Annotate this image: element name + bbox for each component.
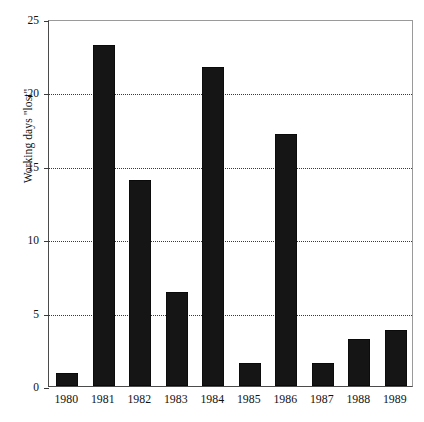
- bar: [202, 67, 224, 386]
- bar: [385, 330, 407, 386]
- y-axis-tick-label: 20: [0, 87, 39, 99]
- y-axis-tick-mark: [44, 241, 49, 242]
- y-axis-tick-label: 5: [0, 308, 39, 320]
- x-axis-tick-label: 1987: [304, 392, 341, 407]
- y-axis-title: Working days "lost": [22, 36, 34, 236]
- bar: [129, 180, 151, 386]
- x-axis-tick-label: 1981: [85, 392, 122, 407]
- x-axis-tick-label: 1984: [194, 392, 231, 407]
- y-axis-tick-label: 15: [0, 161, 39, 173]
- y-axis-tick-label: 10: [0, 234, 39, 246]
- plot-area: [48, 20, 413, 387]
- x-axis-tick-label: 1982: [121, 392, 158, 407]
- y-axis-tick-label: 25: [0, 14, 39, 26]
- y-axis-tick-mark: [44, 21, 49, 22]
- y-axis-tick-mark: [44, 168, 49, 169]
- x-axis-tick-label: 1988: [340, 392, 377, 407]
- x-axis-tick-label: 1989: [377, 392, 414, 407]
- bar: [348, 339, 370, 386]
- x-axis-tick-label: 1983: [158, 392, 195, 407]
- bar: [275, 134, 297, 386]
- x-axis-tick-label: 1980: [48, 392, 85, 407]
- x-axis-tick-label: 1985: [231, 392, 268, 407]
- y-axis-tick-mark: [44, 315, 49, 316]
- bar-chart-figure: Working days "lost" 0510152025 198019811…: [0, 0, 424, 422]
- y-axis-tick-label: 0: [0, 381, 39, 393]
- bar: [93, 45, 115, 386]
- y-axis-tick-mark: [44, 388, 49, 389]
- figure-caption-cropped: [10, 412, 414, 422]
- x-axis-tick-label: 1986: [267, 392, 304, 407]
- bar: [166, 292, 188, 386]
- y-axis-tick-mark: [44, 94, 49, 95]
- bar: [312, 363, 334, 386]
- bar: [56, 373, 78, 386]
- bar: [239, 363, 261, 386]
